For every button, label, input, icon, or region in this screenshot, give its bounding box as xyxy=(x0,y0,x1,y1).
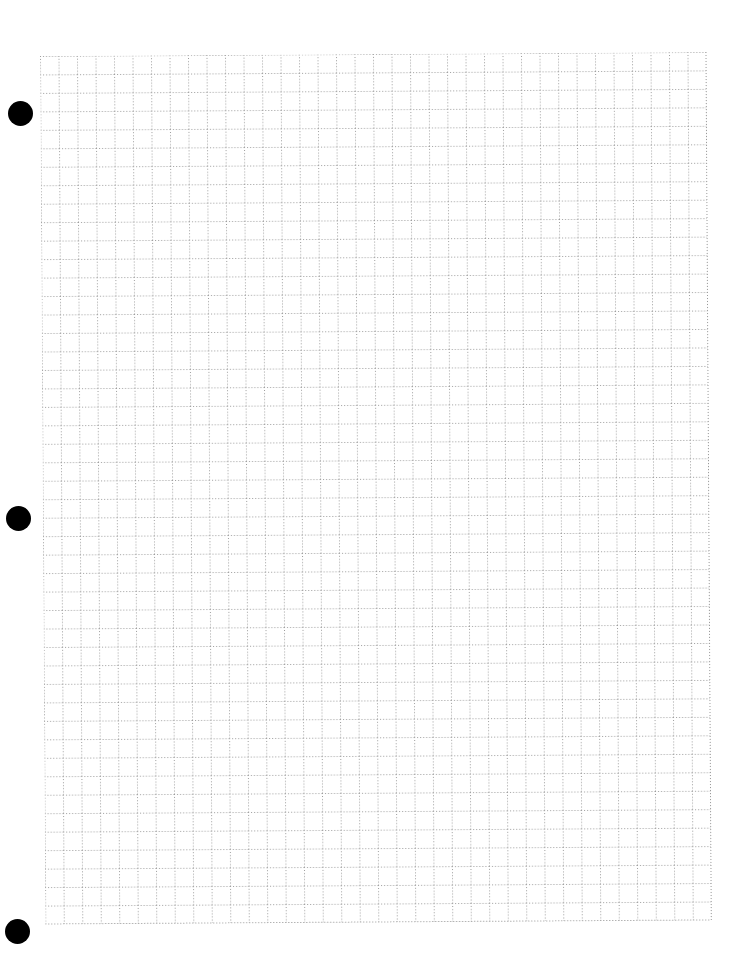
binder-hole-middle xyxy=(6,506,31,531)
binder-hole-bottom xyxy=(5,919,30,944)
dotted-grid xyxy=(40,52,711,924)
binder-hole-top xyxy=(8,101,33,126)
grid-lines xyxy=(40,52,712,925)
graph-paper-sheet xyxy=(0,0,737,974)
